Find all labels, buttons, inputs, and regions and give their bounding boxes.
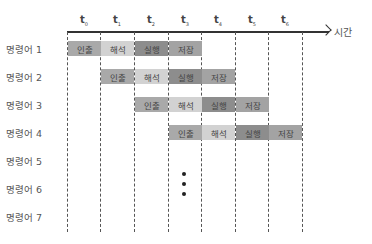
- stage-decode: 해석: [202, 125, 235, 140]
- row-label-3: 명령어 3: [6, 98, 64, 112]
- stage-execute: 실행: [169, 69, 202, 84]
- tick-t0: t0: [74, 14, 94, 27]
- tick-t4: t4: [208, 14, 228, 27]
- stage-store: 저장: [269, 125, 302, 140]
- stage-decode: 해석: [169, 97, 202, 112]
- row-label-6: 명령어 6: [6, 182, 64, 196]
- row-label-4: 명령어 4: [6, 126, 64, 140]
- time-axis-label: 시간: [334, 24, 352, 39]
- grid-line: [100, 32, 101, 232]
- row-label-5: 명령어 5: [6, 154, 64, 168]
- stage-execute: 실행: [202, 97, 235, 112]
- pipeline-diagram: t0 t1 t2 t3 t4 t5 t6 시간 명령어 1 명령어 2 명령어 …: [0, 0, 372, 244]
- row-label-1: 명령어 1: [6, 42, 64, 56]
- grid-line: [302, 32, 303, 232]
- tick-t2: t2: [141, 14, 161, 27]
- arrow-right-icon: [320, 24, 331, 35]
- stage-execute: 실행: [135, 41, 168, 56]
- tick-t1: t1: [107, 14, 127, 27]
- stage-fetch: 인출: [68, 41, 101, 56]
- row-label-2: 명령어 2: [6, 70, 64, 84]
- stage-fetch: 인출: [135, 97, 168, 112]
- tick-t3: t3: [175, 14, 195, 27]
- grid-line: [134, 32, 135, 232]
- grid-line: [67, 32, 68, 232]
- tick-t5: t5: [242, 14, 262, 27]
- stage-store: 저장: [236, 97, 269, 112]
- stage-decode: 해석: [135, 69, 168, 84]
- tick-t6: t6: [275, 14, 295, 27]
- dot: [182, 172, 186, 176]
- dot: [182, 192, 186, 196]
- dot: [182, 182, 186, 186]
- stage-fetch: 인출: [101, 69, 134, 84]
- time-axis-line: [67, 31, 329, 33]
- stage-store: 저장: [202, 69, 235, 84]
- stage-decode: 해석: [101, 41, 134, 56]
- stage-execute: 실행: [236, 125, 269, 140]
- row-label-7: 명령어 7: [6, 210, 64, 224]
- stage-fetch: 인출: [169, 125, 202, 140]
- stage-store: 저장: [169, 41, 202, 56]
